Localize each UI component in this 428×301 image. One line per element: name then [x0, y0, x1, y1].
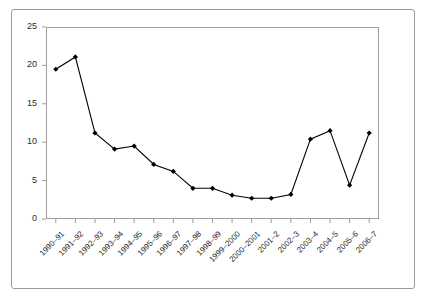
x-axis-labels: 1990–911991–921992–931993–941994–951995–…	[0, 0, 428, 301]
chart-figure: 0510152025 1990–911991–921992–931993–941…	[0, 0, 428, 301]
